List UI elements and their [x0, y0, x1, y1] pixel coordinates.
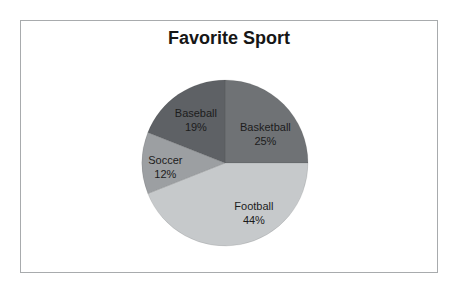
page: Favorite Sport Basketball25%Football44%S…: [0, 0, 454, 287]
pie-chart: Basketball25%Football44%Soccer12%Basebal…: [0, 0, 454, 287]
